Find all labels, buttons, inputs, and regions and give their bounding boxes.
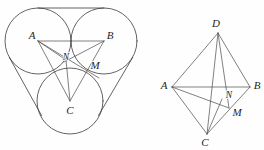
- cevian-A-to-N-left: [38, 41, 66, 60]
- label-C-right: C: [201, 136, 209, 148]
- right-figure: D A B C N M: [160, 17, 261, 148]
- label-B-right: B: [254, 79, 261, 91]
- edge-D-B: [218, 33, 250, 87]
- edge-A-C: [172, 87, 207, 134]
- label-M-right: M: [231, 106, 242, 118]
- segment-AC-left: [38, 41, 70, 101]
- label-D-right: D: [211, 17, 220, 29]
- label-N-left: N: [62, 52, 70, 62]
- tangent-line-right: [99, 58, 133, 116]
- edge-D-C: [207, 33, 218, 134]
- label-B-left: B: [107, 29, 114, 41]
- tangent-line-left: [9, 58, 41, 116]
- tetrahedron-edges: [172, 33, 250, 134]
- edge-D-A: [172, 33, 218, 87]
- label-A-right: A: [160, 79, 168, 91]
- label-C-left: C: [66, 104, 74, 116]
- label-A-left: A: [28, 29, 36, 41]
- cevian-A-to-M: [172, 87, 229, 108]
- label-M-left: M: [89, 59, 100, 71]
- left-figure: A B C N M: [5, 8, 137, 134]
- cevians-left: [38, 41, 104, 101]
- triangle-ABC-left: [38, 41, 104, 101]
- geometry-figure-root: A B C N M D A: [0, 0, 264, 150]
- geometry-canvas: A B C N M D A: [0, 0, 264, 150]
- label-N-right: N: [225, 90, 233, 100]
